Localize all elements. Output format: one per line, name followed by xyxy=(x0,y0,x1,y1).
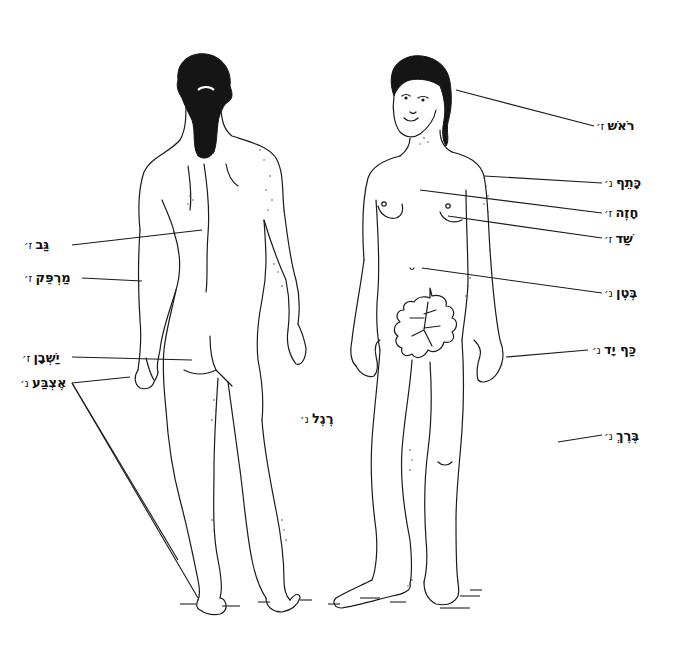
label-chest: חָזֶהז׳ xyxy=(604,205,638,222)
line-drawing xyxy=(0,0,674,660)
label-gender: נ׳ xyxy=(604,177,613,190)
label-gender: נ׳ xyxy=(604,287,613,300)
label-breast: שַׁדז׳ xyxy=(604,231,633,248)
label-leg: רֶגֶלנ׳ xyxy=(300,411,333,428)
label-head: רֹאשׁז׳ xyxy=(596,118,635,135)
label-gender: ז׳ xyxy=(22,352,30,365)
label-knee: בֶּרֶךְנ׳ xyxy=(604,428,639,445)
label-gender: ז׳ xyxy=(604,233,612,246)
label-gender: נ׳ xyxy=(604,430,613,443)
label-word: בֶּרֶךְ xyxy=(616,428,639,443)
label-palm: כַּף יָדנ׳ xyxy=(592,342,636,359)
label-back: גַּבז׳ xyxy=(24,237,49,254)
label-gender: ז׳ xyxy=(24,239,32,252)
label-shoulder: כָּתֵףנ׳ xyxy=(604,175,641,192)
label-gender: ז׳ xyxy=(24,272,32,285)
label-word: שַׁד xyxy=(615,231,633,246)
label-word: כָּתֵף xyxy=(616,175,641,190)
label-gender: נ׳ xyxy=(592,344,601,357)
label-word: אֶצְבַּע xyxy=(32,375,67,390)
label-gender: נ׳ xyxy=(300,413,309,426)
label-word: בֶּטֶן xyxy=(616,285,637,300)
label-elbow: מַרְפֵּקז׳ xyxy=(24,270,71,287)
leader-lines xyxy=(72,90,602,598)
label-word: רֹאשׁ xyxy=(607,118,634,133)
label-word: מַרְפֵּק xyxy=(35,270,70,285)
label-buttocks: יַשְׁבָןז׳ xyxy=(22,350,59,367)
front-view-figure xyxy=(334,56,503,608)
label-belly: בֶּטֶןנ׳ xyxy=(604,285,637,302)
label-finger: אֶצְבַּענ׳ xyxy=(20,375,67,392)
ground-shading xyxy=(180,590,482,608)
body-parts-diagram: רֹאשׁז׳ כָּתֵףנ׳ חָזֶהז׳ שַׁדז׳ בֶּטֶןנ׳… xyxy=(0,0,674,660)
label-gender: נ׳ xyxy=(20,377,29,390)
label-gender: ז׳ xyxy=(596,120,604,133)
label-word: רֶגֶל xyxy=(312,411,334,426)
label-word: גַּב xyxy=(35,237,49,252)
label-word: חָזֶה xyxy=(615,205,638,220)
label-gender: ז׳ xyxy=(604,207,612,220)
label-word: כַּף יָד xyxy=(604,342,636,357)
label-word: יַשְׁבָן xyxy=(33,350,59,365)
